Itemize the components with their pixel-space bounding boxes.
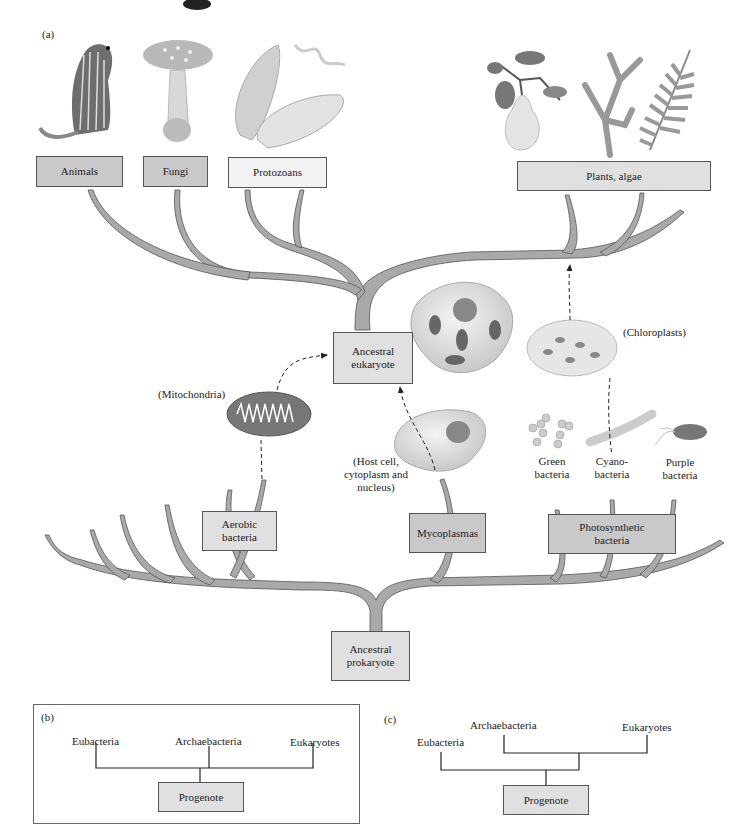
plants-algae-box[interactable]: Plants, algae — [517, 161, 711, 191]
cyano-bacteria-label: Cyano- bacteria — [587, 455, 637, 481]
pear-branch-illustration — [487, 51, 567, 150]
host-cell-line1: (Host cell, — [332, 455, 420, 468]
purple-bacteria-label: Purple bacteria — [655, 456, 705, 482]
photosynthetic-bacteria-box[interactable]: Photosynthetic bacteria — [548, 514, 676, 554]
protozoans-box[interactable]: Protozoans — [228, 157, 327, 188]
chloroplasts-label: (Chloroplasts) — [623, 326, 686, 339]
ancestral-eukaryote-line1: Ancestral — [352, 345, 394, 358]
host-cell-line2: cytoplasm and — [332, 468, 420, 481]
mitochondria-label: (Mitochondria) — [158, 388, 225, 401]
prokaryote-tree-branches — [45, 479, 724, 632]
panel-c-progenote-label: Progenote — [524, 794, 569, 807]
paramecium-illustration — [235, 45, 345, 148]
panel-c-tag: (c) — [384, 713, 396, 725]
panel-b-archaebacteria: Archaebacteria — [175, 735, 242, 748]
mycoplasmas-label: Mycoplasmas — [417, 527, 478, 540]
purple-bacterium-illustration — [655, 424, 707, 445]
panel-c-eubacteria: Eubacteria — [417, 736, 464, 749]
plants-algae-label: Plants, algae — [586, 170, 642, 183]
mycoplasmas-box[interactable]: Mycoplasmas — [409, 513, 486, 553]
ancestral-prokaryote-box[interactable]: Ancestral prokaryote — [331, 631, 410, 681]
host-cell-line3: nucleus) — [332, 481, 420, 494]
fungi-box[interactable]: Fungi — [143, 156, 208, 187]
ancestral-eukaryote-box[interactable]: Ancestral eukaryote — [333, 332, 413, 384]
seaweed-illustration — [585, 55, 640, 155]
panel-a-tag: (a) — [42, 28, 54, 40]
animals-label: Animals — [61, 165, 98, 178]
cyano-bacteria-line2: bacteria — [587, 468, 637, 481]
aerobic-bacteria-line1: Aerobic — [222, 518, 257, 531]
aerobic-bacteria-box[interactable]: Aerobic bacteria — [202, 511, 277, 551]
photosynthetic-bacteria-line1: Photosynthetic — [579, 521, 644, 534]
panel-c-progenote-box[interactable]: Progenote — [503, 785, 589, 815]
panel-b-progenote-box[interactable]: Progenote — [158, 782, 244, 812]
ground-squirrel-illustration — [40, 44, 112, 137]
eukaryote-tree-branches — [88, 190, 684, 330]
panel-b-tag: (b) — [41, 711, 54, 723]
panel-b-eubacteria: Eubacteria — [72, 735, 119, 748]
green-bacteria-illustration — [529, 414, 573, 448]
fungi-label: Fungi — [163, 165, 189, 178]
panel-c-eukaryotes: Eukaryotes — [622, 721, 671, 734]
ancestral-eukaryote-line2: eukaryote — [351, 358, 394, 371]
green-bacteria-label: Green bacteria — [527, 455, 577, 481]
animals-box[interactable]: Animals — [36, 156, 123, 187]
protozoans-label: Protozoans — [253, 166, 302, 179]
purple-bacteria-line2: bacteria — [655, 469, 705, 482]
panel-c-tree-lines — [441, 735, 647, 785]
aerobic-bacteria-line2: bacteria — [222, 531, 257, 544]
cyano-bacteria-line1: Cyano- — [587, 455, 637, 468]
mushroom-illustration — [143, 40, 213, 142]
panel-b-progenote-label: Progenote — [179, 791, 224, 804]
mitochondrion-illustration — [227, 392, 311, 436]
green-bacteria-line1: Green — [527, 455, 577, 468]
panel-b-eukaryotes: Eukaryotes — [290, 736, 339, 749]
green-bacteria-line2: bacteria — [527, 468, 577, 481]
cyanobacteria-illustration — [590, 414, 652, 442]
ancestral-prokaryote-line1: Ancestral — [349, 643, 391, 656]
photosynthetic-bacteria-line2: bacteria — [595, 534, 630, 547]
eukaryotic-cell-illustration — [411, 282, 513, 372]
host-cell-label: (Host cell, cytoplasm and nucleus) — [332, 455, 420, 494]
top-ink-mark — [183, 0, 211, 10]
ancestral-prokaryote-line2: prokaryote — [347, 656, 395, 669]
chloroplast-illustration — [527, 320, 617, 376]
purple-bacteria-line1: Purple — [655, 456, 705, 469]
panel-c-archaebacteria: Archaebacteria — [470, 719, 537, 732]
fern-illustration — [640, 50, 694, 150]
